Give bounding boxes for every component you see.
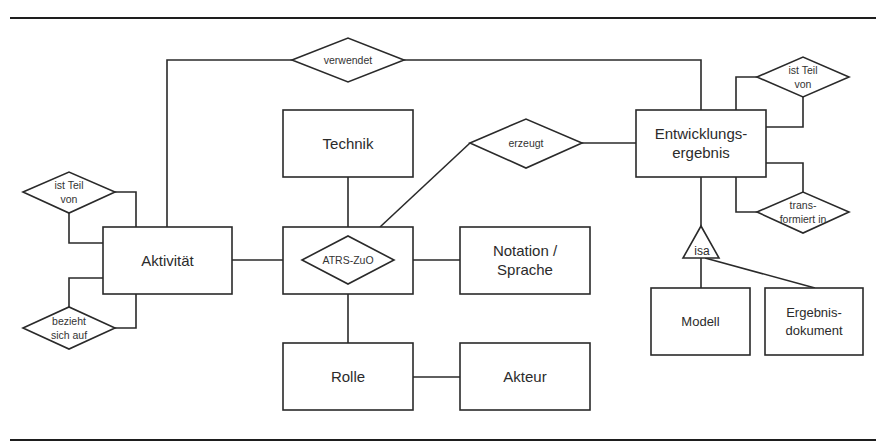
entity-label-line2: Sprache	[497, 261, 553, 278]
entity-notation-sprache: Notation / Sprache	[460, 227, 590, 294]
relationship-verwendet: verwendet	[292, 38, 404, 82]
entity-label-line2: ergebnis	[672, 144, 730, 161]
connector-verwendet-entwicklungsergebnis	[404, 60, 701, 110]
isa-label: isa	[694, 244, 710, 258]
entity-label: Rolle	[331, 368, 365, 385]
relationship-label-line2: sich auf	[51, 329, 87, 341]
entity-label-line1: Ergebnis-	[786, 305, 842, 320]
connector-bezieht-a	[69, 278, 103, 307]
relationship-label: erzeugt	[508, 137, 543, 149]
entity-label: Akteur	[503, 368, 546, 385]
relationship-label: ATRS-ZuO	[322, 254, 373, 266]
entity-rolle: Rolle	[283, 343, 413, 410]
relationship-transformiert-in: trans- formiert in	[757, 192, 849, 233]
connector-istteil-left-b	[69, 213, 103, 243]
relationship-label-line1: bezieht	[52, 315, 86, 327]
entity-aktivitaet: Aktivität	[103, 227, 232, 294]
connector-isa-ergebnisdokument	[705, 258, 815, 288]
entity-label: Technik	[323, 135, 374, 152]
relationship-ist-teil-von-left: ist Teil von	[23, 172, 115, 213]
connector-istteil-right-a	[736, 77, 757, 110]
entity-label-line1: Notation /	[493, 242, 558, 259]
relationship-bezieht-sich-auf: bezieht sich auf	[23, 307, 115, 349]
relationship-erzeugt: erzeugt	[470, 119, 582, 168]
entity-entwicklungsergebnis: Entwicklungs- ergebnis	[636, 110, 766, 177]
relationship-label-line2: von	[795, 78, 812, 90]
relationship-ist-teil-von-right: ist Teil von	[757, 57, 849, 97]
entity-label: Aktivität	[141, 252, 194, 269]
relationship-label-line2: von	[61, 193, 78, 205]
entity-akteur: Akteur	[460, 343, 590, 410]
entity-label-line1: Entwicklungs-	[655, 125, 748, 142]
relationship-label: verwendet	[324, 54, 373, 66]
entity-label-line2: dokument	[785, 323, 842, 338]
connector-transformiert-a	[766, 163, 803, 192]
relationship-label-line1: ist Teil	[789, 64, 818, 76]
connector-istteil-right-b	[766, 97, 803, 127]
relationship-label-line2: formiert in	[780, 213, 827, 225]
entity-modell: Modell	[651, 288, 750, 355]
entity-technik: Technik	[283, 110, 413, 177]
connector-bezieht-b	[115, 294, 136, 328]
connector-istteil-left-a	[115, 192, 136, 227]
entity-ergebnisdokument: Ergebnis- dokument	[765, 288, 863, 355]
connector-aktivitaet-verwendet	[167, 60, 292, 227]
connector-transformiert-b	[736, 177, 757, 212]
entity-label: Modell	[681, 314, 719, 329]
er-diagram: Aktivität Technik Entwicklungs- ergebnis…	[0, 0, 886, 445]
relationship-label-line1: trans-	[790, 199, 817, 211]
isa-triangle: isa	[683, 226, 719, 258]
relationship-label-line1: ist Teil	[55, 179, 84, 191]
